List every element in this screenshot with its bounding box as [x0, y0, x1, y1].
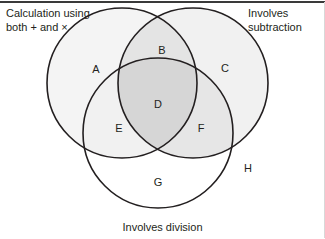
- set-caption-left: Calculation using both + and ×: [6, 7, 90, 34]
- set-caption-right: Involves subtraction: [248, 7, 318, 34]
- venn-diagram-figure: A B C D E F G H Calculation using both +…: [0, 0, 325, 239]
- venn-svg-canvas: [0, 0, 325, 239]
- set-caption-bottom: Involves division: [0, 221, 325, 235]
